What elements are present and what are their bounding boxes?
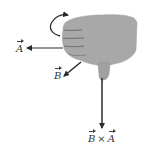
hand-icon [62, 15, 137, 80]
cross-left-symbol: B [88, 134, 95, 144]
vector-b-label: B [54, 71, 61, 81]
right-hand-rule-diagram: A B B×A [0, 0, 157, 152]
cross-product-label: B×A [88, 134, 115, 144]
cross-operator: × [97, 133, 105, 144]
vector-a-symbol: A [16, 44, 23, 54]
cross-right-symbol: A [108, 134, 115, 144]
vector-a-label: A [16, 44, 23, 54]
vector-b-symbol: B [54, 71, 61, 81]
diagram-graphic [0, 0, 157, 152]
vector-b-arrow [64, 62, 81, 76]
